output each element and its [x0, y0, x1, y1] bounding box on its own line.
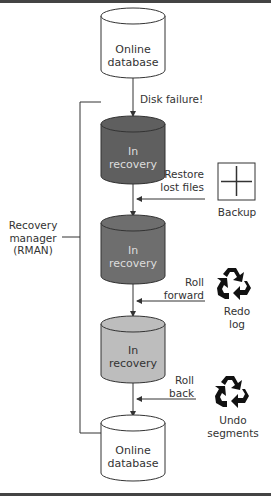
rec2-label: In recovery [101, 244, 165, 270]
rec3-label-line1: In [101, 344, 165, 357]
undo-label-line2: segments [205, 427, 261, 440]
top-db-label: Online database [101, 43, 165, 69]
rman-label-line1: Recovery [4, 219, 62, 232]
roll-back-label-line2: back [160, 387, 194, 400]
backup-label: Backup [210, 206, 264, 219]
redo-recycle-icon [217, 268, 251, 300]
rec3-label-line2: recovery [101, 357, 165, 370]
roll-forward-label-line2: forward [160, 289, 204, 302]
redo-label-line2: log [210, 318, 264, 331]
restore-label-line2: lost files [160, 181, 204, 194]
undo-recycle-icon [215, 376, 249, 408]
undo-segments-label: Undo segments [205, 414, 261, 439]
rec3-label: In recovery [101, 344, 165, 370]
rec2-label-line2: recovery [101, 257, 165, 270]
rec1-label: In recovery [101, 145, 165, 171]
restore-label-line1: Restore [160, 168, 204, 181]
disk-failure-label: Disk failure! [140, 93, 203, 106]
bottom-db-label: Online database [101, 444, 165, 470]
rman-label: Recovery manager (RMAN) [4, 219, 62, 257]
roll-back-label: Roll back [160, 374, 194, 399]
rec1-label-line1: In [101, 145, 165, 158]
backup-plus-box-icon [218, 163, 255, 200]
top-db-label-line1: Online [101, 43, 165, 56]
bottom-db-label-line2: database [101, 457, 165, 470]
rman-label-line2: manager [4, 232, 62, 245]
undo-label-line1: Undo [205, 414, 261, 427]
restore-label: Restore lost files [160, 168, 204, 193]
rec1-label-line2: recovery [101, 158, 165, 171]
rec2-label-line1: In [101, 244, 165, 257]
roll-back-label-line1: Roll [160, 374, 194, 387]
rman-label-line3: (RMAN) [4, 244, 62, 257]
redo-log-label: Redo log [210, 305, 264, 330]
roll-forward-label: Roll forward [160, 276, 204, 301]
bottom-db-label-line1: Online [101, 444, 165, 457]
roll-forward-label-line1: Roll [160, 276, 204, 289]
redo-label-line1: Redo [210, 305, 264, 318]
rman-bracket [62, 102, 101, 433]
top-db-label-line2: database [101, 56, 165, 69]
